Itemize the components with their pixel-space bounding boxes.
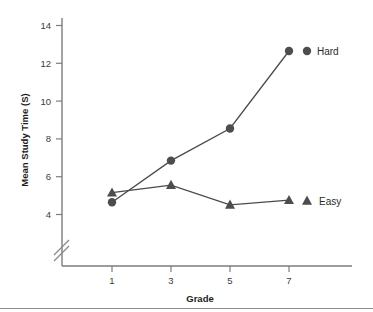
series-label-hard: Hard	[317, 46, 339, 57]
y-ticks-group	[56, 26, 62, 215]
series-label-easy: Easy	[319, 196, 341, 207]
figure-footer-rule	[0, 308, 373, 309]
line-chart-canvas: 14 12 10 8 6 4 1 3 5 7 Grade Mean Study …	[0, 0, 373, 312]
y-axis-title: Mean Study Time (S)	[19, 93, 30, 186]
series-hard-line	[112, 51, 289, 202]
series-hard	[108, 47, 293, 207]
series-easy	[107, 180, 294, 209]
y-tick-label-6: 6	[46, 171, 51, 182]
x-tick-labels-group: 1 3 5 7	[109, 275, 291, 286]
x-axis-title: Grade	[186, 293, 213, 304]
chart-figure: 14 12 10 8 6 4 1 3 5 7 Grade Mean Study …	[0, 0, 373, 312]
y-tick-label-14: 14	[40, 20, 51, 31]
axes-group	[62, 18, 352, 266]
data-point-easy-grade-3	[166, 180, 176, 189]
x-tick-label-1: 1	[109, 275, 114, 286]
y-tick-label-12: 12	[40, 58, 51, 69]
legend-marker-easy	[302, 196, 312, 205]
y-tick-label-8: 8	[46, 133, 51, 144]
data-point-hard-grade-1	[108, 198, 116, 206]
y-tick-label-4: 4	[46, 209, 51, 220]
y-tick-label-10: 10	[40, 96, 51, 107]
data-point-easy-grade-7	[284, 195, 294, 204]
series-easy-line	[112, 185, 289, 205]
data-point-hard-grade-3	[167, 156, 175, 164]
data-point-hard-grade-5	[226, 124, 234, 132]
data-point-hard-grade-7	[285, 47, 293, 55]
legend-marker-hard	[303, 47, 311, 55]
x-tick-label-7: 7	[286, 275, 291, 286]
x-tick-label-3: 3	[168, 275, 173, 286]
x-tick-label-5: 5	[227, 275, 232, 286]
x-ticks-group	[112, 266, 289, 272]
y-tick-labels-group: 14 12 10 8 6 4	[40, 20, 51, 220]
